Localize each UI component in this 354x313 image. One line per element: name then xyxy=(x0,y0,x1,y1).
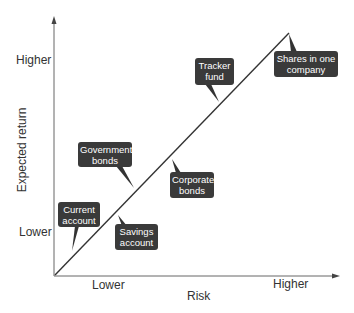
x-axis-label: Risk xyxy=(187,289,210,303)
pointer-corporate-bonds xyxy=(172,159,181,173)
x-tick-lower: Lower xyxy=(92,278,125,292)
callout-line-2: company xyxy=(276,64,336,75)
callout-line-1: Tracker xyxy=(197,60,232,71)
callout-tracker-fund: Tracker fund xyxy=(195,58,234,85)
pointer-government-bonds xyxy=(116,166,134,188)
x-tick-higher: Higher xyxy=(273,277,308,291)
callout-corporate-bonds: Corporate bonds xyxy=(170,172,214,198)
callout-current-account: Current account xyxy=(58,202,100,227)
y-axis-arrow-icon xyxy=(52,16,57,24)
callout-line-2: bonds xyxy=(172,185,212,196)
y-tick-lower: Lower xyxy=(19,225,52,239)
callout-line-1: Government xyxy=(80,144,130,155)
pointer-tracker-fund xyxy=(205,84,219,102)
callout-savings-account: Savings account xyxy=(115,224,158,250)
callout-shares-in-one-company: Shares in one company xyxy=(274,51,338,77)
callout-government-bonds: Government bonds xyxy=(78,142,132,167)
callout-line-1: Shares in one xyxy=(276,53,336,64)
callout-line-2: account xyxy=(117,237,156,248)
y-axis-label: Expected return xyxy=(15,105,29,195)
callout-line-2: bonds xyxy=(80,155,130,166)
callout-line-1: Current xyxy=(60,204,98,215)
callout-line-1: Corporate xyxy=(172,174,212,185)
callout-line-2: account xyxy=(60,215,98,226)
diagram-canvas xyxy=(0,0,354,313)
callout-line-2: fund xyxy=(197,71,232,82)
callout-line-1: Savings xyxy=(117,226,156,237)
pointer-shares-in-one-company xyxy=(289,34,297,52)
y-tick-higher: Higher xyxy=(16,53,51,67)
pointer-current-account xyxy=(72,226,79,251)
x-axis-arrow-icon xyxy=(332,274,340,279)
